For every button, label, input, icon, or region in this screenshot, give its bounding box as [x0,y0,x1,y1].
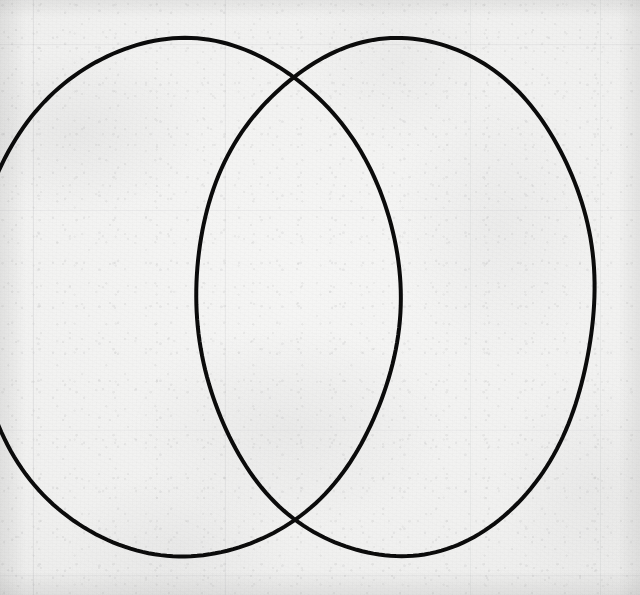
overlapping-circles-drawing [0,0,640,595]
drawing-canvas [0,0,640,595]
left-circle-stroke [0,38,401,557]
right-circle-stroke [196,38,594,556]
